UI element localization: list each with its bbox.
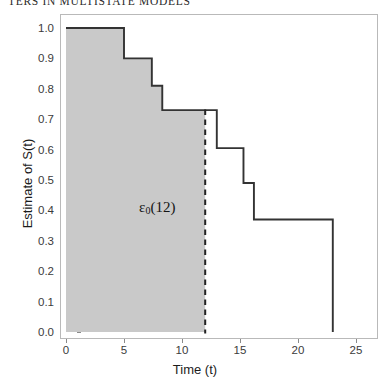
y-tick-mark <box>77 180 81 181</box>
x-tick-mark <box>66 339 67 343</box>
y-tick-label: 0.0 <box>24 326 54 338</box>
y-tick-label: 1.0 <box>24 22 54 34</box>
x-axis-title: Time (t) <box>0 362 390 377</box>
y-tick-mark <box>77 28 81 29</box>
x-tick-mark <box>298 339 299 343</box>
y-tick-mark <box>77 332 81 333</box>
y-tick-label: 0.9 <box>24 52 54 64</box>
x-tick-label: 25 <box>350 344 363 356</box>
x-tick-label: 5 <box>121 344 127 356</box>
x-tick-mark <box>240 339 241 343</box>
y-axis-title: Estimate of S(t) <box>20 94 35 274</box>
plot-frame <box>60 14 378 339</box>
y-tick-mark <box>77 210 81 211</box>
y-tick-mark <box>77 241 81 242</box>
x-tick-label: 0 <box>63 344 69 356</box>
x-tick-label: 20 <box>292 344 305 356</box>
y-tick-label: 0.1 <box>24 296 54 308</box>
y-tick-mark <box>77 150 81 151</box>
epsilon-area-annotation: ε0(12) <box>139 199 175 216</box>
x-tick-mark <box>124 339 125 343</box>
chart-page: TERS IN MULTISTATE MODELS 0.0 0.1 0.2 0.… <box>0 0 390 391</box>
x-tick-mark <box>356 339 357 343</box>
y-tick-mark <box>77 302 81 303</box>
x-tick-label: 10 <box>176 344 189 356</box>
y-tick-mark <box>77 58 81 59</box>
y-tick-mark <box>77 89 81 90</box>
x-tick-mark <box>182 339 183 343</box>
y-tick-mark <box>77 119 81 120</box>
y-tick-mark <box>77 271 81 272</box>
epsilon-argument: (12) <box>150 199 175 215</box>
x-tick-label: 15 <box>234 344 247 356</box>
